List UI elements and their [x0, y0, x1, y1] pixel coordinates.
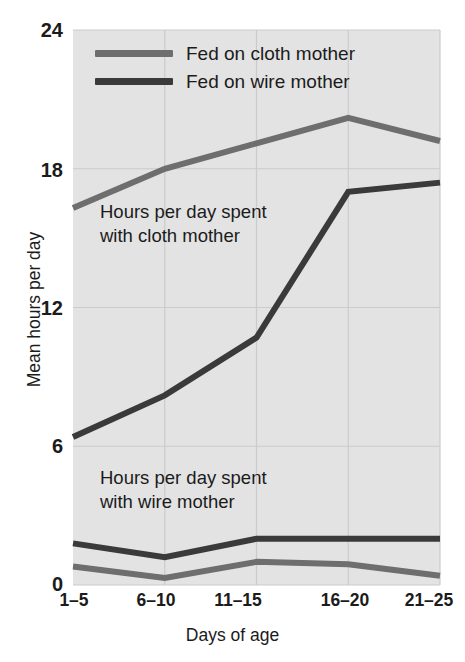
x-axis-tick-1-5: 1–5: [29, 591, 119, 610]
legend-item-cloth: Fed on cloth mother: [95, 44, 355, 63]
x-axis-tick-6-10: 6–10: [111, 591, 201, 610]
legend-swatch-cloth-icon: [95, 50, 173, 57]
annotation-cloth-mother: Hours per day spent with cloth mother: [100, 200, 267, 247]
x-axis-title: Days of age: [0, 625, 465, 646]
chart-legend: Fed on cloth mother Fed on wire mother: [95, 44, 355, 91]
legend-label-wire: Fed on wire mother: [186, 72, 350, 91]
y-axis-tick-24: 24: [13, 20, 63, 40]
x-axis-tick-11-15: 11–15: [193, 591, 283, 610]
x-axis-tick-21-25: 21–25: [384, 591, 465, 610]
x-axis-tick-16-20: 16–20: [300, 591, 390, 610]
plot-canvas: [0, 0, 465, 662]
legend-label-cloth: Fed on cloth mother: [186, 44, 355, 63]
legend-item-wire: Fed on wire mother: [95, 72, 355, 91]
chart-figure: 24 18 12 6 0 Mean hours per day 1–5 6–10…: [0, 0, 465, 662]
legend-swatch-wire-icon: [95, 78, 173, 85]
y-axis-title: Mean hours per day: [24, 170, 45, 450]
annotation-wire-mother: Hours per day spent with wire mother: [100, 466, 267, 513]
